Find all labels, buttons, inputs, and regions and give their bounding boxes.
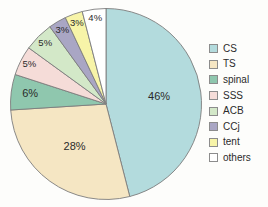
pie-chart-figure: 46%28%6%5%5%3%3%4% CSTSspinalSSSACBCCjte… — [0, 0, 268, 207]
legend-item-label: spinal — [223, 75, 249, 85]
pie-slice-value-ts: 28% — [64, 140, 86, 152]
legend-swatch-icon — [209, 75, 218, 84]
legend-item-ccj[interactable]: CCj — [209, 119, 267, 135]
legend-swatch-icon — [209, 107, 218, 116]
legend-item-sss[interactable]: SSS — [209, 88, 267, 104]
chart-legend: CSTSspinalSSSACBCCjtentothers — [209, 41, 267, 166]
pie-svg: 46%28%6%5%5%3%3%4% — [8, 6, 204, 202]
legend-item-acb[interactable]: ACB — [209, 103, 267, 119]
pie-plot-area: 46%28%6%5%5%3%3%4% — [8, 6, 204, 202]
legend-item-label: CCj — [223, 122, 240, 132]
legend-item-label: TS — [223, 59, 236, 69]
pie-slice-value-acb: 5% — [38, 37, 52, 48]
legend-swatch-icon — [209, 60, 218, 69]
pie-slice-value-spinal: 6% — [22, 87, 38, 99]
pie-slice-value-ccj: 3% — [55, 24, 69, 35]
legend-swatch-icon — [209, 44, 218, 53]
pie-slice-value-sss: 5% — [23, 58, 37, 69]
legend-item-label: SSS — [223, 91, 243, 101]
legend-item-cs[interactable]: CS — [209, 41, 267, 57]
legend-item-others[interactable]: others — [209, 150, 267, 166]
legend-swatch-icon — [209, 138, 218, 147]
pie-slice-value-tent: 3% — [70, 17, 84, 28]
legend-item-spinal[interactable]: spinal — [209, 72, 267, 88]
pie-slice-value-others: 4% — [88, 12, 102, 23]
legend-item-tent[interactable]: tent — [209, 135, 267, 151]
legend-swatch-icon — [209, 91, 218, 100]
legend-item-label: others — [223, 153, 251, 163]
legend-item-label: CS — [223, 44, 237, 54]
legend-swatch-icon — [209, 122, 218, 131]
legend-item-ts[interactable]: TS — [209, 57, 267, 73]
legend-item-label: tent — [223, 137, 240, 147]
legend-item-label: ACB — [223, 106, 244, 116]
legend-swatch-icon — [209, 153, 218, 162]
pie-slice-value-cs: 46% — [148, 90, 170, 102]
